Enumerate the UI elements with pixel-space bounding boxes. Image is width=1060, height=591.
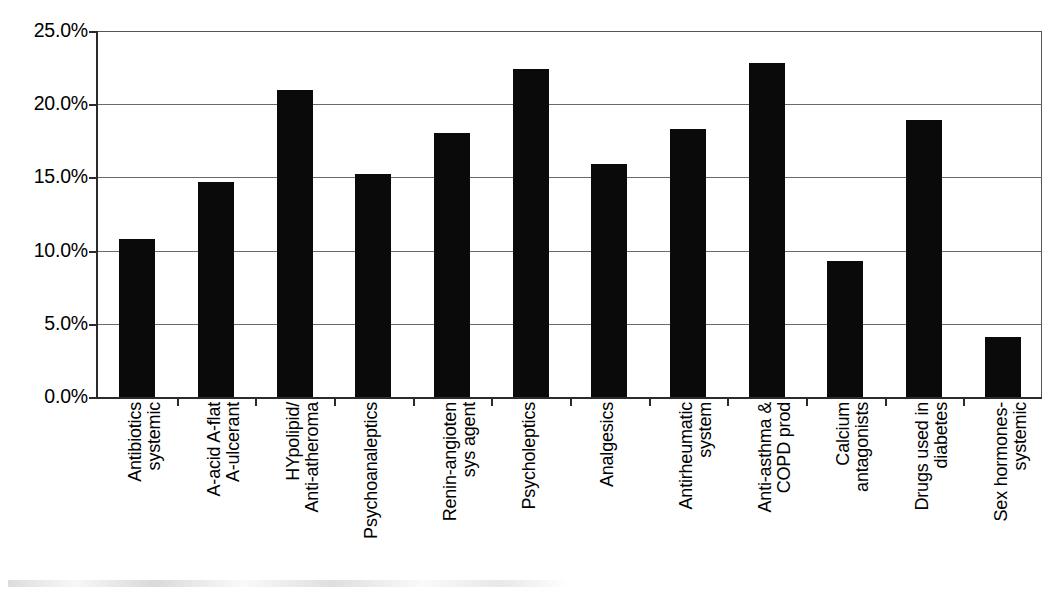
bar: [670, 129, 706, 397]
x-axis-category-label: Renin-angiotensys agent: [441, 402, 457, 572]
x-axis-category-label: Analgesics: [598, 402, 614, 572]
bar: [277, 90, 313, 397]
x-axis-category-label: Psychoanaleptics: [362, 402, 378, 572]
y-axis-tickmark: [89, 397, 98, 399]
y-axis-tick-label: 25.0%: [0, 21, 88, 41]
bar: [749, 63, 785, 397]
y-axis-tick-label: 20.0%: [0, 94, 88, 114]
x-axis-category-label: Calciumantagonists: [834, 402, 850, 572]
y-axis-tickmark: [89, 251, 98, 253]
bar: [119, 239, 155, 397]
bar: [513, 69, 549, 397]
y-axis-tickmark: [89, 177, 98, 179]
y-axis-tickmark: [89, 324, 98, 326]
bar: [434, 133, 470, 397]
x-axis-category-labels: AntibioticssystemicA-acid A-flatA-ulcera…: [96, 402, 1040, 577]
bar-series: [98, 31, 1042, 397]
y-axis-tick-label: 15.0%: [0, 168, 88, 188]
x-axis-category-label: A-acid A-flatA-ulcerant: [205, 402, 221, 572]
x-axis-category-label: HYpolipid/Anti-atheroma: [284, 402, 300, 572]
scan-artifact: [8, 580, 568, 587]
x-axis-category-label: Sex hormones-systemic: [992, 402, 1008, 572]
x-axis-category-label: Psycholeptics: [520, 402, 536, 572]
bar: [827, 261, 863, 397]
x-axis-category-label: Antirheumaticsystem: [677, 402, 693, 572]
bar: [355, 174, 391, 397]
x-axis-category-label: Antibioticssystemic: [126, 402, 142, 572]
bar: [198, 182, 234, 397]
x-axis-category-label: Drugs used indiabetes: [913, 402, 929, 572]
bar: [906, 120, 942, 397]
y-axis-tick-label: 5.0%: [0, 314, 88, 334]
bar: [591, 164, 627, 397]
plot-area: [96, 31, 1042, 399]
bar: [985, 337, 1021, 397]
y-axis-tick-labels: 0.0%5.0%10.0%15.0%20.0%25.0%: [0, 0, 88, 591]
y-axis-tickmark: [89, 104, 98, 106]
y-axis-tick-label: 0.0%: [0, 387, 88, 407]
y-axis-tickmark: [89, 31, 98, 33]
x-axis-category-label: Anti-asthma &COPD prod: [756, 402, 772, 572]
y-axis-tick-label: 10.0%: [0, 241, 88, 261]
bar-chart: 0.0%5.0%10.0%15.0%20.0%25.0% Antibiotics…: [0, 0, 1060, 591]
